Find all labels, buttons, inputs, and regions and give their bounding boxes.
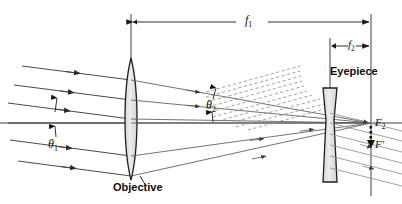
label-theta2: θ2 (206, 99, 216, 114)
ray-diagram-svg (0, 0, 402, 204)
label-f2: f2 (348, 39, 355, 53)
label-focus-f2: F2 (375, 117, 385, 131)
theta1-angle-marker (55, 98, 57, 137)
label-objective: Objective (113, 182, 163, 193)
incoming-ray-bundle (8, 66, 131, 176)
incoming-ray-arrowheads (56, 72, 80, 169)
label-focus-f-prime: F′ (375, 139, 384, 150)
label-eyepiece: Eyepiece (330, 66, 378, 77)
label-theta1: θ1 (48, 138, 58, 153)
figure-canvas: f1 f2 θ1 θ2 Objective Eyepiece F2 F′ (0, 0, 402, 204)
label-f1: f1 (245, 14, 252, 29)
